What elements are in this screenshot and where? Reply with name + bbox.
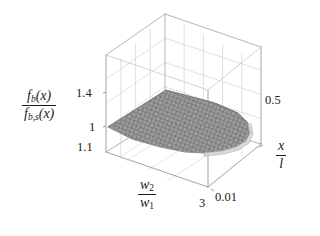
x-axis-numerator: x xyxy=(276,139,286,155)
x-tick-end: 0.5 xyxy=(265,93,281,108)
y-tick-start: 1.1 xyxy=(77,140,93,155)
z-axis-label: fb(x) fb,s(x) xyxy=(22,89,56,122)
y-axis-label: w2 w1 xyxy=(138,178,156,211)
y-tick-end: 3 xyxy=(199,196,205,211)
x-axis-label: x l xyxy=(276,139,286,171)
z-tick-min: 1 xyxy=(89,120,95,135)
z-tick-max: 1.4 xyxy=(76,86,92,101)
x-axis-denominator: l xyxy=(276,155,286,172)
x-tick-start: 0.01 xyxy=(215,190,237,205)
